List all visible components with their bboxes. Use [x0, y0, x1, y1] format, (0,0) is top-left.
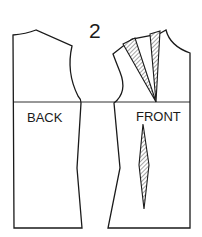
front-outline: [108, 30, 190, 228]
figure-number: 2: [89, 19, 101, 42]
back-label: BACK: [27, 110, 63, 125]
back-outline: [13, 30, 82, 228]
front-label: FRONT: [136, 109, 181, 124]
back-bodice-piece: BACK: [13, 30, 82, 228]
front-bodice-piece: FRONT: [108, 30, 190, 228]
waist-dart: [139, 124, 149, 209]
bodice-pattern-diagram: 2 BACK FRONT: [0, 0, 202, 237]
